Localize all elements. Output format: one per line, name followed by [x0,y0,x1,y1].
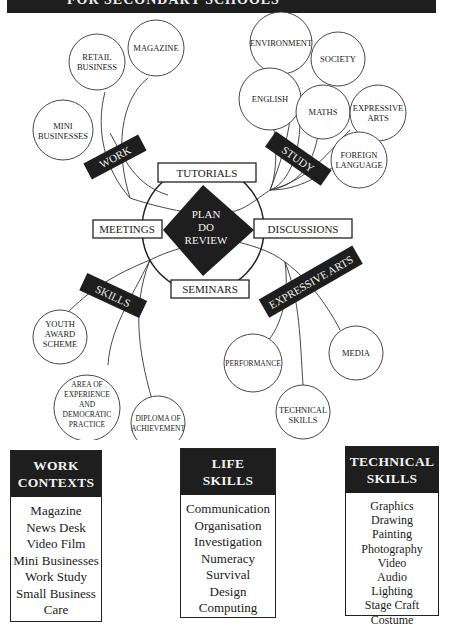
list-item: Communication [181,501,275,518]
svg-text:DIPLOMA OF: DIPLOMA OF [135,414,180,423]
list-item: Small Business [11,586,101,603]
branch-label-skills: SKILLS [79,273,147,318]
svg-text:BUSINESS: BUSINESS [77,62,117,72]
hub-center-line-3: REVIEW [185,234,228,246]
list-item: Mini Businesses [11,553,101,570]
list-item: News Desk [11,520,101,537]
svg-text:SKILLS: SKILLS [289,415,318,425]
activity-tutorials: TUTORIALS [158,163,256,182]
list-item: Video [346,556,438,570]
svg-text:ACHIEVEMENT: ACHIEVEMENT [131,424,186,433]
panel-technical-skills: TECHNICAL SKILLS Graphics Drawing Painti… [345,446,439,616]
svg-text:FOREIGN: FOREIGN [341,150,378,160]
svg-text:MATHS: MATHS [309,107,338,117]
activity-seminars: SEMINARS [171,280,249,298]
life-skills-list: Communication Organisation Investigation… [181,495,275,617]
svg-text:AWARD: AWARD [45,329,76,339]
mind-map: PLAN DO REVIEW TUTORIALS MEETINGS DISCUS… [0,0,457,440]
branch-label-expressive-arts: EXPRESSIVE ARTS [259,245,363,317]
svg-text:PRACTICE: PRACTICE [69,420,106,429]
panel-work-contexts: WORK CONTEXTS Magazine News Desk Video F… [10,450,102,622]
technical-skills-list: Graphics Drawing Painting Photography Vi… [346,493,438,627]
panel-life-skills-title: LIFE SKILLS [181,449,275,495]
list-item: Painting [346,527,438,541]
list-item: Graphics [346,499,438,513]
list-item: Work Study [11,569,101,586]
list-item: Care [11,602,101,619]
svg-text:DEMOCRATIC: DEMOCRATIC [63,410,112,419]
list-item: Survival [181,567,275,584]
list-item: Numeracy [181,551,275,568]
list-item: Lighting [346,584,438,598]
work-contexts-list: Magazine News Desk Video Film Mini Busin… [11,497,101,619]
hub-center-line-2: DO [198,221,214,233]
list-item: Photography [346,542,438,556]
list-item: Audio [346,570,438,584]
svg-text:YOUTH: YOUTH [45,319,75,329]
panel-technical-skills-title: TECHNICAL SKILLS [346,447,438,493]
svg-text:AND: AND [79,400,96,409]
svg-text:ENVIRONMENT: ENVIRONMENT [250,38,313,48]
list-item: Investigation [181,534,275,551]
list-item: Computing [181,600,275,617]
svg-text:SCHEME: SCHEME [43,339,77,349]
svg-text:RETAIL: RETAIL [82,52,112,62]
list-item: Drawing [346,513,438,527]
list-item: Magazine [11,503,101,520]
hub-center-line-1: PLAN [192,208,221,220]
svg-text:TUTORIALS: TUTORIALS [177,167,238,179]
svg-text:LANGUAGE: LANGUAGE [335,160,382,170]
svg-text:SOCIETY: SOCIETY [320,54,356,64]
svg-text:ARTS: ARTS [367,113,388,123]
svg-text:MAGAZINE: MAGAZINE [133,43,178,53]
list-item: Design [181,584,275,601]
list-item: Stage Craft [346,598,438,612]
svg-text:PERFORMANCE: PERFORMANCE [225,359,281,368]
panel-life-skills: LIFE SKILLS Communication Organisation I… [180,448,276,618]
svg-text:SEMINARS: SEMINARS [182,283,238,295]
svg-text:MINI: MINI [53,121,73,131]
activity-meetings: MEETINGS [93,220,162,238]
svg-text:EXPRESSIVE: EXPRESSIVE [353,103,404,113]
list-item: Costume [346,613,438,627]
svg-text:AREA OF: AREA OF [71,380,102,389]
svg-text:MEETINGS: MEETINGS [99,223,155,235]
list-item: Organisation [181,518,275,535]
svg-text:ENGLISH: ENGLISH [252,94,288,104]
svg-text:MEDIA: MEDIA [342,348,371,358]
panel-work-contexts-title: WORK CONTEXTS [11,451,101,497]
svg-text:BUSINESSES: BUSINESSES [38,131,88,141]
svg-text:DISCUSSIONS: DISCUSSIONS [268,223,339,235]
svg-text:TECHNICAL: TECHNICAL [279,405,327,415]
list-item: Video Film [11,536,101,553]
svg-text:EXPRESSIVE ARTS: EXPRESSIVE ARTS [267,253,355,311]
svg-text:EXPERIENCE: EXPERIENCE [64,390,110,399]
activity-discussions: DISCUSSIONS [254,219,352,238]
